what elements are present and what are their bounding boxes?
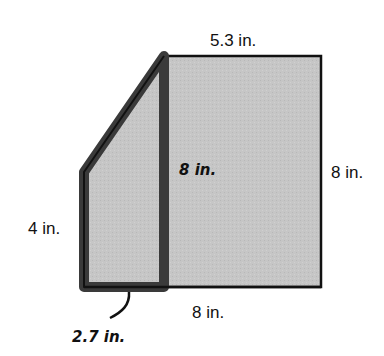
label-rect-right: 8 in.: [331, 163, 363, 182]
composite-figure-diagram: 5.3 in. 8 in. 8 in. 4 in. 8 in. 2.7 in.: [0, 0, 384, 356]
trapezoid-shape: [84, 56, 164, 287]
label-rect-bottom: 8 in.: [192, 303, 224, 322]
label-trap-left: 4 in.: [28, 219, 60, 238]
label-shared-height: 8 in.: [179, 161, 216, 179]
pointer-curve: [110, 292, 129, 318]
label-rect-top: 5.3 in.: [210, 31, 256, 50]
label-trap-bottom: 2.7 in.: [72, 328, 125, 346]
